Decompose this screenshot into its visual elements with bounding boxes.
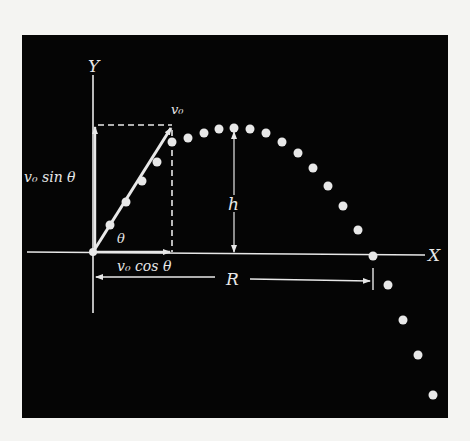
trajectory-dot bbox=[184, 134, 193, 143]
trajectory-dot bbox=[230, 124, 239, 133]
trajectory-dot bbox=[89, 248, 97, 256]
initial-velocity-label: v₀ bbox=[171, 102, 184, 117]
trajectory-dot bbox=[278, 138, 287, 147]
trajectory-dot bbox=[168, 138, 177, 147]
trajectory-dot bbox=[339, 202, 348, 211]
trajectory-dot bbox=[384, 281, 393, 290]
trajectory-dot bbox=[354, 226, 363, 235]
trajectory-dot bbox=[309, 164, 318, 173]
y-axis-label: Y bbox=[88, 56, 101, 76]
trajectory-dot bbox=[369, 252, 378, 261]
vertical-component-label: v₀ sin θ bbox=[24, 169, 76, 185]
trajectory-dot bbox=[429, 391, 438, 400]
diagram-panel bbox=[22, 35, 448, 418]
trajectory-dot bbox=[324, 182, 333, 191]
trajectory-dot bbox=[153, 158, 162, 167]
trajectory-dot bbox=[200, 129, 209, 138]
x-axis-label: X bbox=[426, 245, 441, 265]
trajectory-dot bbox=[215, 125, 224, 134]
trajectory-dot bbox=[246, 125, 255, 134]
height-label: h bbox=[228, 194, 239, 214]
trajectory-dot bbox=[138, 177, 147, 186]
projectile-motion-diagram: Y X v₀ v₀ sin θ v₀ cos θ θ h R bbox=[0, 0, 470, 441]
range-label: R bbox=[225, 269, 239, 289]
trajectory-dot bbox=[414, 351, 423, 360]
horizontal-component-label: v₀ cos θ bbox=[117, 258, 172, 274]
angle-label: θ bbox=[117, 231, 125, 246]
trajectory-dot bbox=[399, 316, 408, 325]
trajectory-dot bbox=[122, 198, 131, 207]
trajectory-dot bbox=[294, 149, 303, 158]
trajectory-dot bbox=[262, 129, 271, 138]
trajectory-dot bbox=[106, 221, 115, 230]
